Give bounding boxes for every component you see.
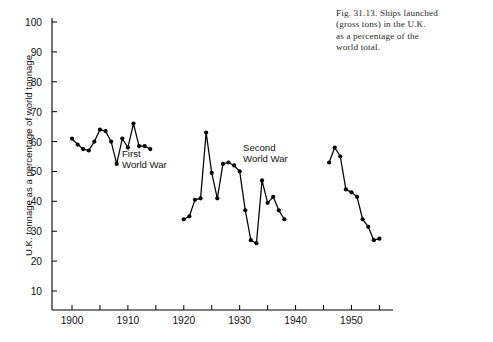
data-point [254, 241, 258, 245]
annotation-second-world-war: Second World War [243, 142, 288, 164]
data-point [87, 148, 91, 152]
data-point [327, 160, 331, 164]
data-point [120, 136, 124, 140]
data-point [349, 190, 353, 194]
y-axis-tick-label: 30 [8, 226, 42, 237]
figure-root: Fig. 31.13. Ships launched (gross tons) … [0, 0, 493, 342]
data-point [187, 214, 191, 218]
data-point [361, 217, 365, 221]
data-point [131, 122, 135, 126]
y-axis-tick-label: 90 [8, 46, 42, 57]
x-axis-tick-label: 1950 [340, 315, 363, 326]
chart-svg [0, 0, 400, 342]
y-axis-tick-label: 10 [8, 286, 42, 297]
data-point [198, 196, 202, 200]
annotation-first-world-war: First World War [122, 148, 167, 170]
data-point [260, 178, 264, 182]
data-point [344, 187, 348, 191]
data-point [266, 201, 270, 205]
x-axis-tick-label: 1930 [228, 315, 251, 326]
data-point [355, 195, 359, 199]
y-axis-tick-label: 60 [8, 136, 42, 147]
y-axis-title: U.K. tonnage as a percentage of world to… [23, 31, 34, 281]
data-point [226, 160, 230, 164]
data-point [215, 196, 219, 200]
data-point [372, 238, 376, 242]
data-point [333, 145, 337, 149]
data-point [193, 198, 197, 202]
data-point [210, 171, 214, 175]
data-point [271, 195, 275, 199]
data-point [338, 154, 342, 158]
chart-plot-area: U.K. tonnage as a percentage of world to… [0, 0, 400, 342]
data-point [238, 169, 242, 173]
data-point [70, 136, 74, 140]
data-point [221, 162, 225, 166]
data-point [92, 139, 96, 143]
data-point [249, 238, 253, 242]
x-axis-tick-label: 1910 [117, 315, 140, 326]
y-axis-tick-label: 50 [8, 166, 42, 177]
y-axis-tick-label: 70 [8, 106, 42, 117]
y-axis-tick-label: 20 [8, 256, 42, 267]
data-point [243, 208, 247, 212]
data-point [103, 129, 107, 133]
data-point [182, 217, 186, 221]
data-point [282, 217, 286, 221]
x-axis-tick-label: 1900 [61, 315, 84, 326]
data-point [204, 130, 208, 134]
data-point [377, 237, 381, 241]
x-axis-tick-label: 1920 [172, 315, 195, 326]
data-point [366, 225, 370, 229]
data-point [98, 128, 102, 132]
data-point [109, 139, 113, 143]
y-axis-tick-label: 80 [8, 76, 42, 87]
data-point [232, 163, 236, 167]
x-axis-tick-label: 1940 [284, 315, 307, 326]
y-axis-tick-label: 100 [8, 17, 42, 28]
series-line [329, 148, 379, 241]
data-point [81, 147, 85, 151]
data-point [75, 142, 79, 146]
data-point [277, 208, 281, 212]
data-point [115, 162, 119, 166]
y-axis-tick-label: 40 [8, 196, 42, 207]
